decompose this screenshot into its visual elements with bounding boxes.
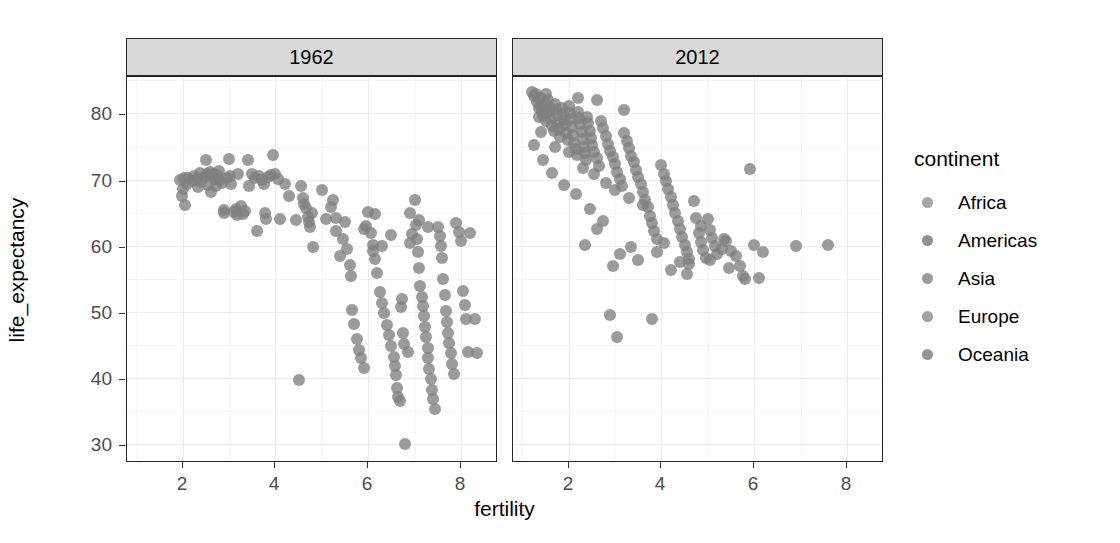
scatter-point (588, 168, 600, 180)
x-tick-mark (753, 462, 754, 468)
scatter-point (344, 259, 356, 271)
scatter-point (260, 213, 272, 225)
scatter-point (570, 188, 582, 200)
x-tick-label: 4 (254, 474, 294, 493)
scatter-point (822, 239, 834, 251)
gridline-vertical-minor (136, 77, 137, 461)
scatter-point (414, 280, 426, 292)
scatter-point (367, 245, 379, 257)
gridline-vertical (275, 77, 276, 461)
legend-item-americas[interactable]: Americas (912, 221, 1112, 259)
legend-key (912, 225, 942, 255)
scatter-point (757, 246, 769, 258)
facet-strip: 2012 (512, 38, 883, 76)
y-tick-mark (119, 313, 125, 314)
scatter-point (563, 146, 575, 158)
scatter-point (283, 190, 295, 202)
scatter-point (471, 347, 483, 359)
scatter-point (577, 162, 589, 174)
gridline-vertical (661, 77, 662, 461)
scatter-point (327, 194, 339, 206)
scatter-point (351, 333, 363, 345)
scatter-point (385, 340, 397, 352)
x-tick-mark (182, 462, 183, 468)
scatter-point (537, 154, 549, 166)
scatter-point (429, 403, 441, 415)
gridline-vertical (754, 77, 755, 461)
gridline-horizontal-minor (513, 411, 882, 412)
scatter-point (290, 214, 302, 226)
legend-key (912, 339, 942, 369)
scatter-point (422, 221, 434, 233)
scatter-point (440, 305, 452, 317)
legend-key (912, 187, 942, 217)
scatter-point (457, 285, 469, 297)
legend-label: Asia (958, 269, 995, 288)
scatter-point (371, 267, 383, 279)
gridline-horizontal-minor (127, 80, 496, 81)
scatter-point (614, 248, 626, 260)
legend-label: Africa (958, 193, 1007, 212)
legend-label: Americas (958, 231, 1037, 250)
scatter-point (464, 227, 476, 239)
gridline-horizontal (513, 312, 882, 313)
legend-item-oceania[interactable]: Oceania (912, 335, 1112, 373)
gridline-horizontal-minor (513, 80, 882, 81)
scatter-point (607, 260, 619, 272)
scatter-point (646, 313, 658, 325)
legend-dot-icon (922, 311, 933, 322)
scatter-point (242, 154, 254, 166)
x-axis-title: fertility (126, 497, 883, 521)
y-tick-mark (119, 181, 125, 182)
x-tick-mark (568, 462, 569, 468)
scatter-point (540, 88, 552, 100)
scatter-point (558, 179, 570, 191)
legend-item-africa[interactable]: Africa (912, 183, 1112, 221)
scatter-point (688, 195, 700, 207)
chart-root: life_expectancy 304050607080 19622468201… (0, 0, 1120, 543)
scatter-point (394, 395, 406, 407)
scatter-point (402, 346, 414, 358)
scatter-point (572, 92, 584, 104)
scatter-point (611, 331, 623, 343)
legend-dot-icon (922, 197, 933, 208)
x-tick-mark (660, 462, 661, 468)
scatter-point (579, 239, 591, 251)
scatter-point (295, 180, 307, 192)
legend-dot-icon (922, 273, 933, 284)
scatter-point (439, 289, 451, 301)
x-tick-label: 2 (548, 474, 588, 493)
scatter-point (369, 208, 381, 220)
x-tick-label: 6 (733, 474, 773, 493)
legend-key (912, 301, 942, 331)
scatter-point (345, 270, 357, 282)
scatter-point (341, 243, 353, 255)
y-tick-label: 50 (72, 303, 112, 322)
scatter-point (413, 262, 425, 274)
scatter-point (459, 299, 471, 311)
scatter-point (274, 213, 286, 225)
x-tick-mark (460, 462, 461, 468)
legend-dot-icon (922, 235, 933, 246)
gridline-vertical-minor (801, 77, 802, 461)
legend-entries: AfricaAmericasAsiaEuropeOceania (912, 183, 1112, 373)
gridline-vertical-minor (229, 77, 230, 461)
scatter-point (469, 313, 481, 325)
scatter-point (267, 149, 279, 161)
plot-panel (126, 76, 497, 462)
legend-item-europe[interactable]: Europe (912, 297, 1112, 335)
scatter-point (385, 229, 397, 241)
scatter-point (316, 184, 328, 196)
scatter-point (425, 373, 437, 385)
x-tick-label: 8 (826, 474, 866, 493)
plot-panel (512, 76, 883, 462)
facet-strip-label: 1962 (289, 47, 334, 67)
scatter-point (399, 438, 411, 450)
gridline-horizontal (513, 444, 882, 445)
legend-label: Oceania (958, 345, 1029, 364)
legend-item-asia[interactable]: Asia (912, 259, 1112, 297)
scatter-point (200, 154, 212, 166)
scatter-point (623, 192, 635, 204)
scatter-point (223, 153, 235, 165)
scatter-point (411, 233, 423, 245)
